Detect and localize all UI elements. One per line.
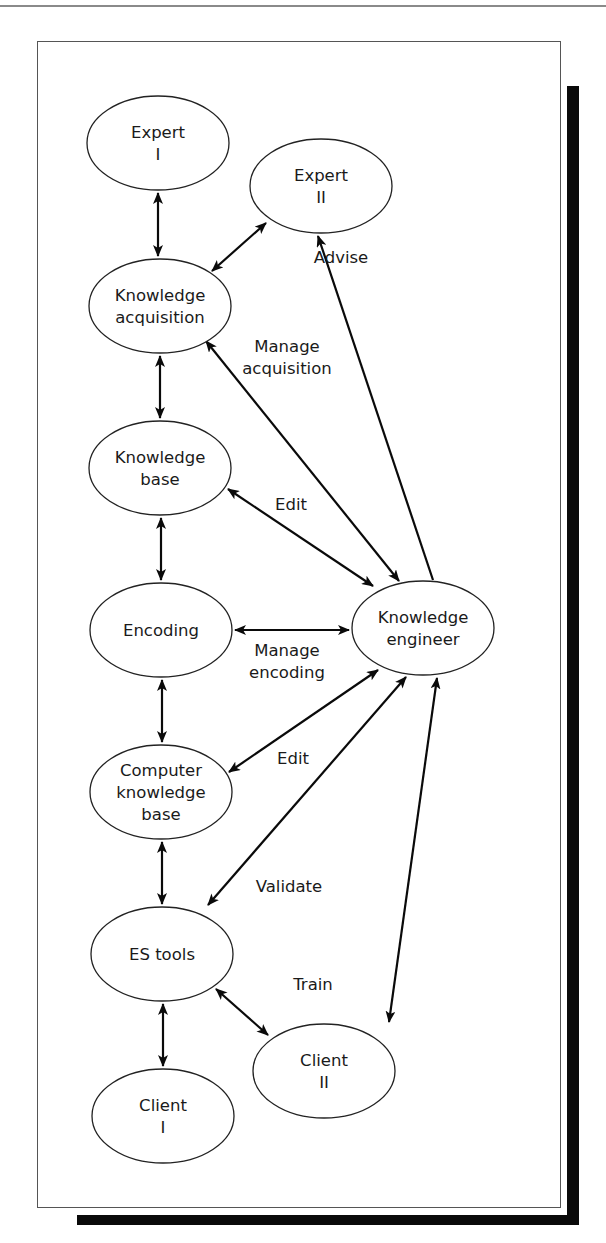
edge-label-edit-kb: Edit — [275, 495, 307, 514]
node-expert2: ExpertII — [250, 139, 392, 233]
edge-label-edit-ckb: Edit — [277, 749, 309, 768]
node-label: base — [140, 470, 179, 489]
node-label: Client — [139, 1096, 187, 1115]
edge-label-text: Edit — [277, 749, 309, 768]
edge-label-text: Edit — [275, 495, 307, 514]
node-ellipse — [253, 1024, 395, 1118]
node-label: ES tools — [129, 945, 195, 964]
arrow-estools-client2 — [216, 989, 268, 1035]
node-client1: ClientI — [92, 1069, 234, 1163]
node-ellipse — [92, 1069, 234, 1163]
node-expert1: ExpertI — [87, 96, 229, 190]
arrow-kengineer-client2 — [389, 678, 437, 1022]
node-ellipse — [352, 581, 494, 675]
node-label: Knowledge — [378, 608, 469, 627]
node-label: Encoding — [123, 621, 199, 640]
node-kengineer: Knowledgeengineer — [352, 581, 494, 675]
node-label: II — [319, 1073, 329, 1092]
node-ellipse — [250, 139, 392, 233]
edge-label-train: Train — [292, 975, 333, 994]
edge-label-text: Manage — [254, 641, 320, 660]
arrow-kengineer-estools — [208, 677, 406, 905]
arrow-kacq-expert2 — [212, 223, 266, 271]
node-kacq: Knowledgeacquisition — [89, 259, 231, 353]
node-label: Computer — [120, 761, 202, 780]
edge-label-manage-acquisition: Manageacquisition — [242, 337, 332, 378]
edge-label-manage-encoding: Manageencoding — [249, 641, 325, 682]
edge-label-text: acquisition — [242, 359, 332, 378]
edge-label-text: Manage — [254, 337, 320, 356]
edge-label-text: Validate — [256, 877, 323, 896]
node-label: base — [141, 805, 180, 824]
node-label: Expert — [294, 166, 349, 185]
edge-label-text: Advise — [314, 248, 369, 267]
node-label: II — [316, 188, 326, 207]
node-ellipse — [89, 421, 231, 515]
node-ellipse — [87, 96, 229, 190]
edge-label-validate: Validate — [256, 877, 323, 896]
node-ellipse — [89, 259, 231, 353]
diagram-canvas: ExpertIExpertIIKnowledgeacquisitionKnowl… — [0, 0, 606, 1243]
node-label: acquisition — [115, 308, 205, 327]
node-label: knowledge — [116, 783, 205, 802]
node-label: engineer — [386, 630, 459, 649]
node-label: I — [156, 145, 161, 164]
edge-labels-layer: AdviseManageacquisitionEditManageencodin… — [242, 248, 368, 994]
edge-label-text: encoding — [249, 663, 325, 682]
node-label: Knowledge — [115, 286, 206, 305]
node-label: Client — [300, 1051, 348, 1070]
node-estools: ES tools — [91, 907, 233, 1001]
arrow-kengineer-expert2 — [318, 236, 433, 580]
edge-label-text: Train — [292, 975, 333, 994]
node-label: Knowledge — [115, 448, 206, 467]
edge-label-advise: Advise — [314, 248, 369, 267]
node-encoding: Encoding — [90, 583, 232, 677]
node-ckb: Computerknowledgebase — [90, 745, 232, 839]
node-client2: ClientII — [253, 1024, 395, 1118]
node-kbase: Knowledgebase — [89, 421, 231, 515]
node-label: I — [161, 1118, 166, 1137]
node-label: Expert — [131, 123, 186, 142]
